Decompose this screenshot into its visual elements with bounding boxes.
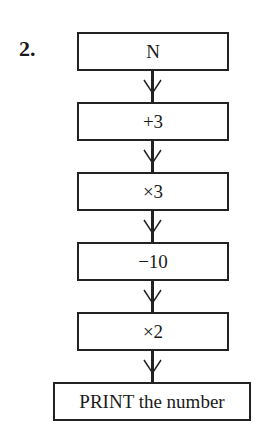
arrow-connector (151, 211, 154, 242)
step-label: +3 (143, 111, 163, 133)
arrow-down-icon (144, 360, 161, 374)
arrow-down-icon (144, 80, 161, 94)
flow-step-double: ×2 (77, 312, 229, 351)
arrow-connector (151, 141, 154, 172)
question-number: 2. (19, 36, 36, 62)
flow-output-print: PRINT the number (53, 382, 251, 421)
step-label: ×2 (143, 321, 163, 343)
arrow-down-icon (144, 220, 161, 234)
arrow-down-icon (144, 150, 161, 164)
flow-step-add: +3 (77, 102, 229, 141)
output-label: PRINT the number (79, 391, 224, 413)
arrow-connector (151, 71, 154, 102)
flow-step-start: N (77, 32, 229, 71)
flow-step-subtract: −10 (77, 242, 229, 281)
flow-step-multiply: ×3 (77, 172, 229, 211)
step-label: ×3 (143, 181, 163, 203)
step-label: N (146, 41, 160, 63)
arrow-connector (151, 281, 154, 312)
step-label: −10 (138, 251, 168, 273)
arrow-connector (151, 351, 154, 382)
arrow-down-icon (144, 290, 161, 304)
